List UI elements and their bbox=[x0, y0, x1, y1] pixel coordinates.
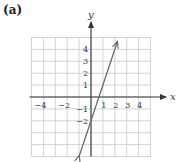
tick-labels: −4−212344321−1−2 bbox=[35, 45, 143, 125]
y-tick-label: 1 bbox=[83, 81, 88, 90]
y-tick-label: 4 bbox=[83, 45, 88, 54]
x-tick-label: 2 bbox=[113, 101, 118, 110]
y-axis-label: y bbox=[87, 9, 94, 20]
x-axis-label: x bbox=[170, 91, 176, 102]
x-tick-label: −4 bbox=[35, 101, 47, 110]
x-tick-label: 3 bbox=[125, 101, 130, 110]
x-tick-label: 4 bbox=[137, 101, 142, 110]
y-tick-label: −1 bbox=[76, 105, 88, 114]
graph: xy −4−212344321−1−2 bbox=[0, 0, 178, 162]
x-tick-label: −2 bbox=[58, 101, 70, 110]
y-tick-label: 2 bbox=[83, 69, 88, 78]
y-tick-label: 3 bbox=[83, 57, 88, 66]
x-tick-label: 1 bbox=[101, 101, 106, 110]
y-tick-label: −2 bbox=[76, 117, 88, 126]
